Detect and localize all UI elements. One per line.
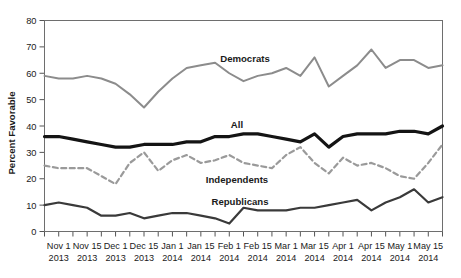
x-tick-label-date: Mar 15: [300, 241, 328, 251]
x-tick-label-year: 2014: [418, 253, 438, 263]
y-tick-label: 20: [26, 174, 36, 184]
x-tick-label-date: May 1: [387, 241, 412, 251]
y-tick-label: 10: [26, 201, 36, 211]
y-axis-ticks: 01020304050607080: [26, 16, 44, 237]
y-tick-label: 30: [26, 148, 36, 158]
x-tick-label-date: Mar 1: [275, 241, 298, 251]
y-tick-label: 70: [26, 42, 36, 52]
x-tick-label-date: Dec 15: [130, 241, 159, 251]
x-tick-label-year: 2014: [304, 253, 324, 263]
x-tick-label-date: Feb 15: [244, 241, 272, 251]
y-tick-label: 80: [26, 16, 36, 26]
x-tick-label-year: 2014: [191, 253, 211, 263]
percent-favorable-line-chart: Percent Favorable 01020304050607080 Nov …: [0, 0, 461, 278]
x-tick-label-year: 2013: [77, 253, 97, 263]
x-tick-label-date: Nov 15: [73, 241, 102, 251]
x-tick-label-year: 2014: [361, 253, 381, 263]
series-label-democrats: Democrats: [220, 53, 270, 64]
series-label-independents: Independents: [206, 174, 268, 185]
x-tick-label-date: Jan 15: [187, 241, 214, 251]
x-tick-label-year: 2014: [276, 253, 296, 263]
x-tick-label-date: Dec 1: [104, 241, 128, 251]
y-axis-title-group: Percent Favorable: [6, 91, 17, 174]
y-tick-label: 50: [26, 95, 36, 105]
x-tick-label-date: Nov 1: [47, 241, 71, 251]
x-tick-label-year: 2014: [248, 253, 268, 263]
x-tick-label-year: 2014: [162, 253, 182, 263]
x-tick-label-date: Apr 15: [358, 241, 385, 251]
x-tick-label-year: 2013: [105, 253, 125, 263]
x-tick-label-date: May 15: [413, 241, 443, 251]
x-tick-label-year: 2014: [219, 253, 239, 263]
x-tick-label-date: Feb 1: [218, 241, 241, 251]
x-axis-ticks: Nov 12013Nov 152013Dec 12013Dec 152013Ja…: [45, 232, 444, 263]
series-label-all: All: [231, 119, 243, 130]
y-tick-label: 60: [26, 69, 36, 79]
x-tick-label-year: 2013: [49, 253, 69, 263]
series-line-all: [45, 126, 443, 147]
y-tick-label: 0: [31, 227, 36, 237]
series-label-republicans: Republicans: [211, 196, 268, 207]
x-tick-label-year: 2014: [390, 253, 410, 263]
x-tick-label-date: Apr 1: [332, 241, 354, 251]
y-tick-label: 40: [26, 122, 36, 132]
y-axis-title: Percent Favorable: [6, 91, 17, 174]
x-tick-label-year: 2014: [333, 253, 353, 263]
x-tick-label-date: Jan 1: [161, 241, 183, 251]
chart-container: Percent Favorable 01020304050607080 Nov …: [0, 0, 461, 278]
x-tick-label-year: 2013: [134, 253, 154, 263]
